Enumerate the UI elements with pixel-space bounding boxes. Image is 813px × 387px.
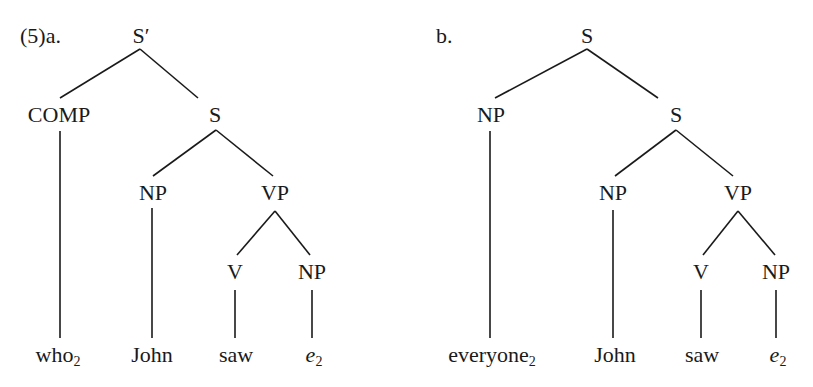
tree-a-label: (5)a. (20, 25, 61, 47)
tree-a-leaf-who: who2 (36, 344, 81, 366)
tree-b-node-np-quantifier: NP (477, 104, 505, 126)
tree-b-label: b. (436, 25, 453, 47)
tree-a-node-np-subject: NP (139, 182, 167, 204)
tree-a-leaf-john: John (131, 344, 173, 366)
tree-b-leaf-john: John (594, 344, 636, 366)
tree-b-node-vp: VP (724, 182, 752, 204)
tree-b-node-v: V (693, 261, 709, 283)
tree-a-leaf-saw: saw (219, 344, 253, 366)
tree-a-node-s: S (209, 104, 221, 126)
tree-b-leaf-trace: e2 (770, 344, 787, 366)
tree-a-leaf-trace: e2 (306, 344, 323, 366)
tree-b-node-np-subject: NP (599, 182, 627, 204)
tree-b-node-s-root: S (581, 25, 593, 47)
tree-b-node-s: S (670, 104, 682, 126)
tree-a-node-comp: COMP (28, 104, 90, 126)
tree-b-leaf-saw: saw (685, 344, 719, 366)
tree-a-node-s-bar: S′ (132, 25, 149, 47)
tree-b-leaf-everyone: everyone2 (448, 344, 536, 366)
syntax-tree-figure: (5)a. S′ COMP S NP VP V NP who2 John saw… (0, 0, 813, 387)
tree-edges (0, 0, 813, 387)
tree-a-node-np-object: NP (298, 261, 326, 283)
tree-b-node-np-object: NP (762, 261, 790, 283)
tree-a-node-vp: VP (261, 182, 289, 204)
tree-a-node-v: V (227, 261, 243, 283)
